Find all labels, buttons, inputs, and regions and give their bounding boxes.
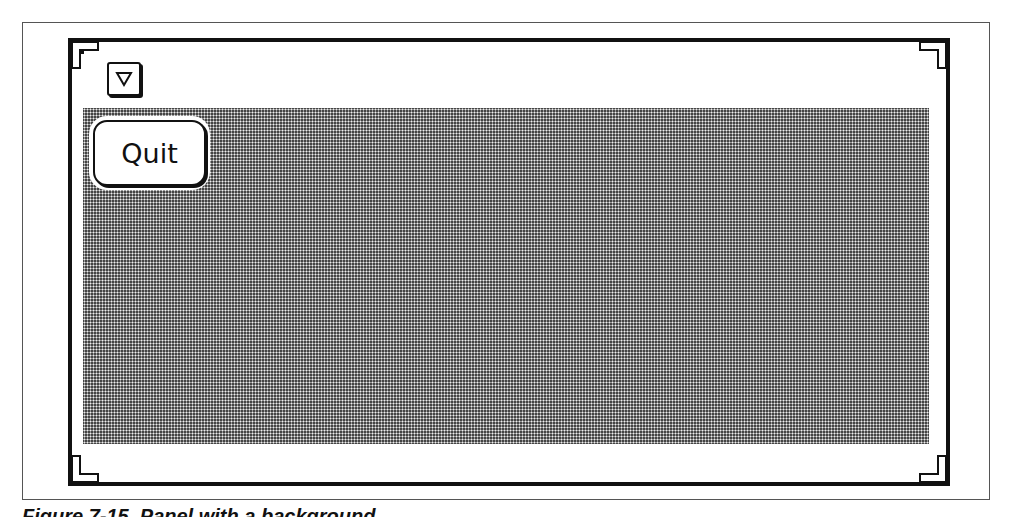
- resize-corner-bottom-right[interactable]: [916, 452, 950, 486]
- resize-corner-top-right[interactable]: [916, 38, 950, 72]
- window-menu-button[interactable]: [107, 62, 141, 96]
- quit-button[interactable]: Quit: [93, 120, 206, 186]
- resize-corner-bottom-left[interactable]: [68, 452, 102, 486]
- window-frame: Quit: [68, 38, 950, 486]
- quit-button-label: Quit: [121, 138, 177, 169]
- figure-caption: Figure 7-15. Panel with a background: [22, 505, 375, 517]
- resize-corner-top-left[interactable]: [68, 38, 102, 72]
- panel-pane: Quit: [83, 108, 929, 444]
- triangle-down-icon: [115, 70, 133, 88]
